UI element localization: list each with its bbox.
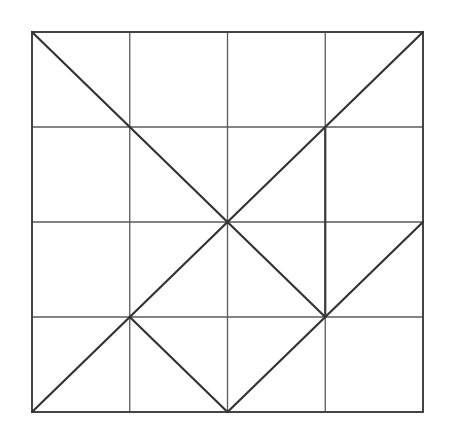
diag-center-r3c1-segment — [130, 222, 228, 317]
diag-r3c3-right-segment — [325, 222, 423, 317]
diag-center-r3c3-segment — [228, 222, 326, 317]
diag-bottom-mid-r3c3-segment — [228, 317, 326, 412]
diag-r3c1-bottom-mid-segment — [130, 317, 228, 412]
grid-diagram — [0, 0, 450, 442]
diag-r3c1-bl-segment — [32, 317, 130, 412]
